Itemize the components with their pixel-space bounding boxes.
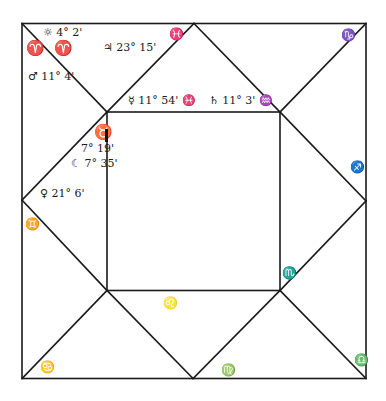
- chart-grid: [0, 0, 386, 401]
- diamond-left-bottom: [22, 200, 107, 291]
- scorpio-sign-icon: ♏: [282, 267, 297, 279]
- leo-sign-icon: ♌: [163, 297, 178, 309]
- aries-sign-icon-2: ♈: [54, 41, 73, 56]
- ascendant-degree: 7° 19': [81, 143, 114, 154]
- taurus-sign-icon: ♉: [94, 125, 113, 140]
- gemini-sign-icon: ♊: [25, 218, 40, 230]
- sagittarius-sign-icon: ♐: [350, 161, 365, 173]
- mercury-position: ☿ 11° 54' ♓: [128, 95, 196, 106]
- inner-frame: [107, 112, 280, 291]
- pisces-sign-icon: ♓: [169, 28, 184, 40]
- diag-bl: [22, 291, 107, 379]
- aries-sign-icon: ♈: [26, 41, 45, 56]
- virgo-sign-icon: ♍: [221, 364, 236, 376]
- sun-position: ☼ 4° 2': [43, 27, 82, 38]
- moon-position: ☾ 7° 35': [71, 158, 118, 169]
- libra-sign-icon: ♎: [354, 354, 369, 366]
- saturn-position: ♄ 11° 3' ♒: [209, 95, 273, 106]
- diamond-right-top: [280, 112, 366, 201]
- mars-position: ♂ 11° 4': [28, 71, 74, 82]
- cancer-sign-icon: ♋: [40, 361, 55, 373]
- ascendant-marker: [105, 129, 108, 142]
- venus-position: ♀ 21° 6': [40, 188, 85, 199]
- diamond-bottom-right: [193, 291, 280, 379]
- diamond-bottom-left: [107, 291, 193, 379]
- jupiter-position: ♃ 23° 15': [103, 42, 156, 53]
- capricorn-sign-icon: ♑: [341, 29, 356, 41]
